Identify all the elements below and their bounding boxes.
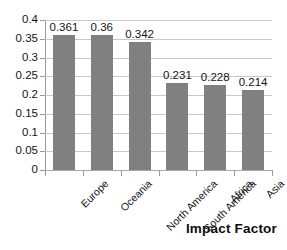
x-axis-tick xyxy=(121,171,122,176)
bar-value-label: 0.214 xyxy=(231,77,275,89)
gridline xyxy=(45,95,272,96)
bar xyxy=(53,35,75,170)
y-axis-tick-label: 0.4 xyxy=(0,14,38,26)
bar xyxy=(91,35,113,170)
x-axis-tick xyxy=(196,171,197,176)
bar-value-label: 0.342 xyxy=(118,29,162,41)
y-axis-tick xyxy=(40,39,45,40)
y-axis-tick-label: 0.05 xyxy=(0,145,38,157)
y-axis-tick-labels: 00.050.10.150.20.250.30.350.4 xyxy=(0,0,38,250)
x-axis-tick xyxy=(234,171,235,176)
y-axis-tick-label: 0 xyxy=(0,164,38,176)
y-axis-tick-label: 0.25 xyxy=(0,70,38,82)
y-axis-tick xyxy=(40,114,45,115)
x-axis-title: Impact Factor xyxy=(186,221,277,236)
x-axis-category-label: Oceania xyxy=(118,178,153,213)
y-axis-tick-label: 0.35 xyxy=(0,33,38,45)
x-axis-tick xyxy=(272,171,273,176)
y-axis-tick-label: 0.1 xyxy=(0,127,38,139)
y-axis-tick-label: 0.15 xyxy=(0,108,38,120)
y-axis-tick xyxy=(40,151,45,152)
x-axis-tick xyxy=(83,171,84,176)
y-axis-tick-label: 0.3 xyxy=(0,52,38,64)
plot-area xyxy=(45,20,272,170)
y-axis-tick-label: 0.2 xyxy=(0,89,38,101)
bar xyxy=(242,90,264,170)
y-axis-tick xyxy=(40,133,45,134)
x-axis-tick xyxy=(159,171,160,176)
gridline xyxy=(45,133,272,134)
bar-chart: 00.050.10.150.20.250.30.350.4 0.3610.360… xyxy=(0,0,287,250)
gridline xyxy=(45,58,272,59)
bar xyxy=(166,83,188,170)
x-axis-tick xyxy=(45,171,46,176)
x-axis-category-label: Asia xyxy=(264,178,286,200)
gridline xyxy=(45,114,272,115)
y-axis-tick xyxy=(40,95,45,96)
x-axis-category-label: Europe xyxy=(79,178,110,209)
y-axis-tick xyxy=(40,76,45,77)
y-axis-tick xyxy=(40,58,45,59)
gridline xyxy=(45,151,272,152)
bar xyxy=(204,85,226,171)
bar xyxy=(129,42,151,170)
